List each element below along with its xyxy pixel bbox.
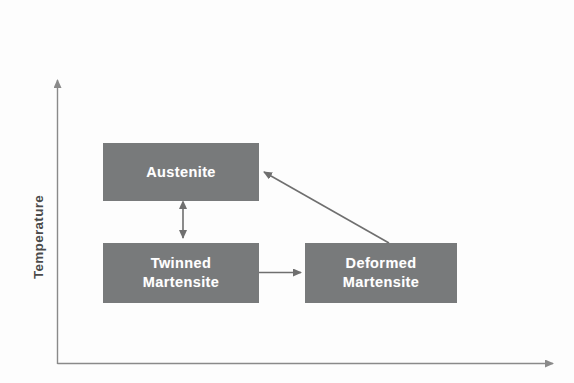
edge-deformed-austenite	[264, 172, 389, 243]
node-deformed-martensite-label: DeformedMartensite	[339, 254, 424, 291]
node-twinned-martensite: TwinnedMartensite	[103, 243, 259, 303]
node-austenite: Austenite	[103, 143, 259, 201]
y-axis-label: Temperature	[31, 195, 46, 279]
diagram-vector-layer	[0, 0, 574, 383]
node-twinned-martensite-label: TwinnedMartensite	[139, 254, 224, 291]
diagram-canvas: Austenite TwinnedMartensite DeformedMart…	[0, 0, 574, 383]
node-austenite-label: Austenite	[142, 163, 220, 182]
node-deformed-martensite: DeformedMartensite	[305, 243, 457, 303]
